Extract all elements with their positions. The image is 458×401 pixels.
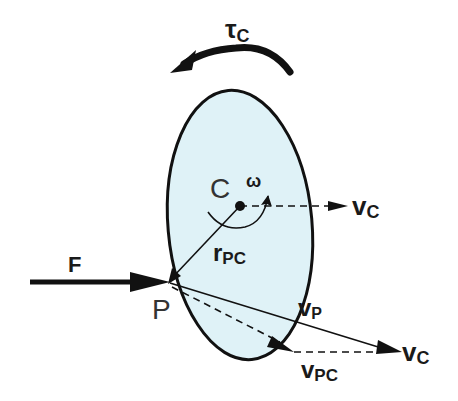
force-label: F	[68, 252, 81, 277]
vp-label: vP	[298, 294, 322, 322]
vpc-label: vPC	[301, 356, 338, 385]
ellipse-body	[157, 84, 324, 366]
omega-label: ω	[246, 171, 261, 191]
torque-label: τC	[225, 14, 250, 46]
center-point-C	[235, 201, 245, 211]
vc-bottom-label: vC	[402, 337, 429, 368]
rigid-body-kinematics-diagram: τC C ω vC rPC F P vP vC vPC	[0, 0, 458, 401]
force-arrow-F	[30, 272, 170, 292]
center-label: C	[210, 173, 230, 204]
vc-right-label: vC	[352, 191, 379, 222]
point-label: P	[152, 294, 171, 325]
torque-arc-arrow	[170, 48, 290, 74]
diagram-canvas: τC C ω vC rPC F P vP vC vPC	[0, 0, 458, 401]
